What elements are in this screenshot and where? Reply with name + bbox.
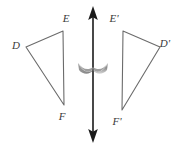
reflection-diagram-canvas: D E F D' E' F' <box>0 0 188 148</box>
vertex-label-d-prime: D' <box>159 37 171 49</box>
vertex-label-f: F <box>58 110 66 122</box>
geometry-diagram: D E F D' E' F' <box>0 0 188 148</box>
vertex-label-e: E <box>62 12 70 24</box>
diagram-background <box>0 0 188 148</box>
vertex-label-d: D <box>11 39 20 51</box>
vertex-label-e-prime: E' <box>108 12 119 24</box>
vertex-label-f-prime: F' <box>111 115 122 127</box>
